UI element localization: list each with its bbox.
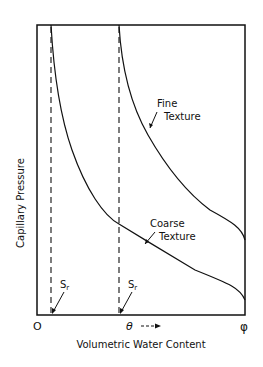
- x-axis-label: Volumetric Water Content: [76, 339, 205, 350]
- y-axis-label: Capillary Pressure: [15, 158, 26, 248]
- sr-label-fine: Sr: [128, 279, 137, 292]
- fine-texture-curve: [119, 25, 245, 240]
- sr-leader-coarse: [53, 292, 64, 312]
- plot-frame: [37, 25, 245, 315]
- sr-arrowhead-fine-icon: [120, 308, 124, 314]
- sr-arrowhead-coarse-icon: [52, 308, 56, 314]
- coarse-label-line2: Texture: [158, 231, 196, 242]
- fine-label-line2: Texture: [163, 111, 201, 122]
- x-tick-phi: φ: [240, 320, 248, 334]
- coarse-texture-curve: [51, 25, 245, 300]
- sr-label-coarse: Sr: [60, 279, 69, 292]
- sr-leader-fine: [121, 292, 132, 312]
- retention-curve-diagram: Fine Texture Coarse Texture Sr Sr O θ φ …: [0, 0, 263, 367]
- theta-arrowhead-icon: [155, 324, 161, 329]
- x-tick-origin: O: [33, 320, 42, 333]
- coarse-label-line1: Coarse: [150, 218, 185, 229]
- x-tick-theta: θ: [126, 320, 133, 333]
- fine-label-line1: Fine: [157, 98, 177, 109]
